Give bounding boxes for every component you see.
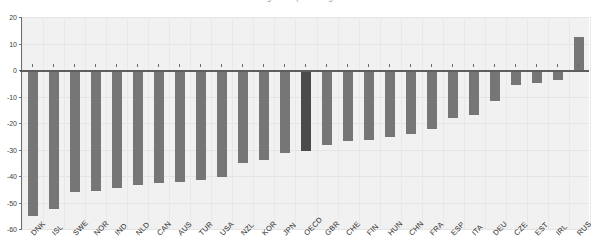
x-gridline bbox=[401, 17, 402, 229]
x-gridline bbox=[548, 17, 549, 229]
y-gridline bbox=[22, 203, 589, 204]
bar-chn bbox=[406, 70, 416, 134]
y-tick-label: 20 bbox=[9, 14, 17, 21]
x-tick-mark bbox=[158, 64, 159, 67]
x-tick-mark bbox=[53, 64, 54, 67]
bar-can bbox=[154, 70, 164, 183]
x-tick-mark bbox=[389, 64, 390, 67]
y-gridline bbox=[22, 176, 589, 177]
x-gridline bbox=[232, 17, 233, 229]
x-gridline bbox=[22, 17, 23, 229]
bar-swe bbox=[70, 70, 80, 192]
x-tick-mark bbox=[284, 64, 285, 67]
x-tick-mark bbox=[116, 64, 117, 67]
bar-nld bbox=[133, 70, 143, 185]
x-gridline bbox=[64, 17, 65, 229]
bar-fra bbox=[427, 70, 437, 129]
x-tick-mark bbox=[200, 64, 201, 67]
x-tick-mark bbox=[74, 64, 75, 67]
bar-fin bbox=[364, 70, 374, 140]
bar-esp bbox=[448, 70, 458, 118]
bar-usa bbox=[217, 70, 227, 177]
x-gridline bbox=[443, 17, 444, 229]
x-tick-mark bbox=[242, 64, 243, 67]
y-tick-label: 0 bbox=[13, 67, 17, 74]
bar-nor bbox=[91, 70, 101, 191]
y-tick-label: -50 bbox=[7, 199, 17, 206]
y-axis: 20100-10-20-30-40-50-60 bbox=[0, 0, 21, 250]
bar-isl bbox=[49, 70, 59, 209]
y-gridline bbox=[22, 17, 589, 18]
bar-rus bbox=[574, 37, 584, 70]
x-tick-mark bbox=[32, 64, 33, 67]
x-tick-mark bbox=[410, 64, 411, 67]
x-tick-mark bbox=[179, 64, 180, 67]
y-gridline bbox=[22, 44, 589, 45]
x-gridline bbox=[253, 17, 254, 229]
x-tick-mark bbox=[557, 64, 558, 67]
bar-est bbox=[532, 70, 542, 83]
bar-gbr bbox=[322, 70, 332, 145]
x-tick-mark bbox=[305, 64, 306, 67]
zero-axis-line bbox=[20, 70, 589, 72]
bar-aus bbox=[175, 70, 185, 182]
x-gridline bbox=[506, 17, 507, 229]
x-gridline bbox=[380, 17, 381, 229]
bar-tur bbox=[196, 70, 206, 180]
y-tick-label: 10 bbox=[9, 40, 17, 47]
x-gridline bbox=[169, 17, 170, 229]
x-gridline bbox=[127, 17, 128, 229]
x-gridline bbox=[527, 17, 528, 229]
x-tick-mark bbox=[515, 64, 516, 67]
x-gridline bbox=[148, 17, 149, 229]
x-gridline bbox=[422, 17, 423, 229]
bar-chart: Change in ... percentage ... 20100-10-20… bbox=[0, 0, 594, 250]
x-tick-mark bbox=[431, 64, 432, 67]
x-gridline bbox=[464, 17, 465, 229]
x-tick-mark bbox=[221, 64, 222, 67]
plot-area bbox=[21, 17, 589, 229]
chart-title: Change in ... percentage ... bbox=[0, 0, 594, 2]
x-tick-mark bbox=[95, 64, 96, 67]
x-tick-mark bbox=[347, 64, 348, 67]
x-gridline bbox=[338, 17, 339, 229]
x-gridline bbox=[106, 17, 107, 229]
bar-dnk bbox=[28, 70, 38, 216]
y-tick-label: -30 bbox=[7, 146, 17, 153]
y-tick-label: -40 bbox=[7, 173, 17, 180]
bar-nzl bbox=[238, 70, 248, 163]
x-gridline bbox=[190, 17, 191, 229]
x-tick-mark bbox=[137, 64, 138, 67]
x-tick-mark bbox=[536, 64, 537, 67]
bar-ind bbox=[112, 70, 122, 188]
y-tick-label: -20 bbox=[7, 120, 17, 127]
x-tick-mark bbox=[578, 64, 579, 67]
x-gridline bbox=[211, 17, 212, 229]
bar-ita bbox=[469, 70, 479, 115]
x-axis: DNKISLSWENORINDNLDCANAUSTURUSANZLKORJPNO… bbox=[0, 229, 594, 250]
bar-deu bbox=[490, 70, 500, 101]
bar-kor bbox=[259, 70, 269, 160]
x-gridline bbox=[569, 17, 570, 229]
plot-inner bbox=[22, 17, 589, 229]
x-tick-mark bbox=[263, 64, 264, 67]
x-tick-mark bbox=[326, 64, 327, 67]
bar-oecd bbox=[301, 70, 311, 151]
bar-jpn bbox=[280, 70, 290, 153]
y-tick-label: -10 bbox=[7, 93, 17, 100]
x-gridline bbox=[590, 17, 591, 229]
x-tick-mark bbox=[494, 64, 495, 67]
x-gridline bbox=[85, 17, 86, 229]
bar-hun bbox=[385, 70, 395, 137]
x-gridline bbox=[359, 17, 360, 229]
x-gridline bbox=[317, 17, 318, 229]
bar-cze bbox=[511, 70, 521, 85]
x-tick-mark bbox=[473, 64, 474, 67]
x-gridline bbox=[485, 17, 486, 229]
x-gridline bbox=[295, 17, 296, 229]
x-tick-mark bbox=[368, 64, 369, 67]
bar-che bbox=[343, 70, 353, 141]
x-gridline bbox=[274, 17, 275, 229]
x-gridline bbox=[43, 17, 44, 229]
x-tick-mark bbox=[452, 64, 453, 67]
